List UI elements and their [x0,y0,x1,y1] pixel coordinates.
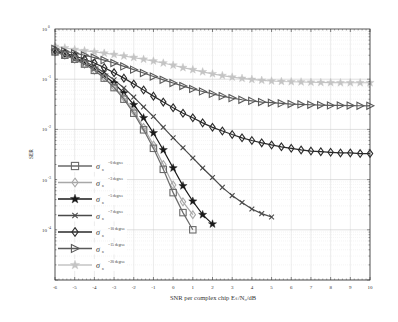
x-tick-label: 9 [349,285,352,290]
x-tick-label: -1 [151,285,156,290]
ser-vs-snr-chart: -6-5-4-3-2-101234567891010010-110-210-31… [0,0,398,322]
star-marker [356,78,364,86]
y-tick-label: 10 [42,228,48,233]
y-tick-label: 10 [42,77,48,82]
plot-area: -6-5-4-3-2-101234567891010010-110-210-31… [0,0,398,322]
legend-label: =7 degree [108,210,123,214]
star-marker [179,182,187,190]
star-marker [297,78,305,86]
x-tick-label: 6 [290,285,293,290]
star-marker [258,76,266,84]
legend-label: =3 degree [108,177,123,181]
x-tick-label: -4 [92,285,97,290]
star-marker [120,52,128,60]
series-line [55,51,272,217]
legend-subscript: n [102,250,104,254]
y-tick-label: 10 [42,27,48,32]
legend-label: =0 degree [108,161,123,165]
x-tick-label: 1 [192,285,195,290]
y-tick-exponent: -4 [48,226,51,230]
star-marker [159,59,167,67]
x-tick-label: 4 [251,285,254,290]
y-tick-label: 10 [42,127,48,132]
star-marker [179,63,187,71]
legend-subscript: n [102,201,104,205]
x-tick-label: 0 [172,285,175,290]
x-tick-label: -5 [73,285,78,290]
y-tick-exponent: -3 [48,176,51,180]
legend-subscript: n [102,267,104,271]
x-axis-label: SNR per complex chip Eₛ/N₀/dB [170,294,257,301]
y-axis-label: SER [28,149,34,159]
x-tick-label: -6 [53,285,58,290]
legend-entry-15-degree: σn=15 degree [57,243,127,255]
x-tick-label: 7 [310,285,313,290]
legend-subscript: n [102,184,104,188]
x-tick-label: 10 [368,285,374,290]
y-tick-exponent: -2 [48,125,51,129]
star-marker [139,55,147,63]
x-tick-label: 8 [329,285,332,290]
legend-entry-3-degree: σn=3 degree [57,177,127,189]
legend-entry-5-degree: σn=5 degree [57,193,127,205]
legend-label: =20 degree [108,260,125,264]
legend-entry-10-degree: σn=10 degree [57,226,127,238]
star-marker [100,49,108,57]
legend-subscript: n [102,234,104,238]
y-tick-label: 10 [42,178,48,183]
legend: σn=0 degreeσn=3 degreeσn=5 degreeσn=7 de… [57,160,127,271]
star-marker [238,74,246,82]
series-15-degree [52,45,374,109]
star-marker [159,146,167,154]
legend-label: =15 degree [108,243,125,247]
x-tick-label: 5 [270,285,273,290]
legend-subscript: n [102,168,104,172]
x-tick-label: -2 [132,285,137,290]
x-tick-label: 2 [211,285,214,290]
legend-entry-0-degree: σn=0 degree [57,160,127,172]
star-marker [199,68,207,76]
legend-entry-7-degree: σn=7 degree [57,210,127,222]
legend-entry-20-degree: σn=20 degree [57,259,127,271]
legend-label: =5 degree [108,194,123,198]
series-0-degree [52,49,196,233]
star-marker [218,71,226,79]
legend-label: =10 degree [108,227,125,231]
x-tick-label: 3 [231,285,234,290]
legend-subscript: n [102,217,104,221]
star-marker [336,78,344,86]
x-tick-label: -3 [112,285,117,290]
star-marker [277,77,285,85]
y-tick-exponent: 0 [48,25,50,29]
y-tick-exponent: -1 [48,75,51,79]
